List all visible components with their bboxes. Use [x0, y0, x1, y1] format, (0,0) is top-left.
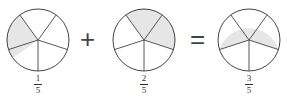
plus-sign: + [80, 26, 95, 52]
fraction-label-3: 3 5 [242, 74, 256, 95]
numerator: 1 [31, 74, 45, 83]
pie-one-fifth [7, 9, 69, 71]
denominator: 5 [31, 86, 45, 95]
fraction-label-2: 2 5 [137, 74, 151, 95]
denominator: 5 [137, 86, 151, 95]
denominator: 5 [242, 86, 256, 95]
shaded-sector [7, 15, 38, 58]
equals-sign: = [190, 26, 205, 52]
pie-three-fifths [218, 9, 280, 71]
pie-two-fifths [113, 9, 175, 71]
numerator: 3 [242, 74, 256, 83]
numerator: 2 [137, 74, 151, 83]
fraction-label-1: 1 5 [31, 74, 45, 95]
